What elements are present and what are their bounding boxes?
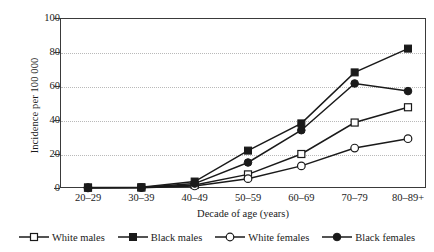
- data-point-4: [298, 120, 305, 127]
- legend-label: White females: [247, 232, 309, 243]
- data-point-0: [84, 184, 92, 192]
- chart-legend: White malesBlack malesWhite femalesBlack…: [0, 231, 434, 243]
- legend-item-black-females[interactable]: Black females: [322, 231, 415, 243]
- x-tick-label-6: 80–89+: [378, 192, 434, 203]
- y-axis-title: Incidence per 100 000: [29, 21, 40, 191]
- data-point-6: [404, 135, 412, 143]
- data-point-5: [351, 144, 359, 152]
- x-tick-label-2: 40–49: [165, 192, 225, 203]
- legend-marker-open-circle-icon: [215, 231, 245, 243]
- data-series-layer: [60, 18, 426, 188]
- data-point-2: [191, 180, 199, 188]
- legend-marker-filled-circle-icon: [322, 231, 352, 243]
- legend-marker-open-square-icon: [19, 231, 49, 243]
- data-point-5: [351, 69, 358, 76]
- chart-figure: Incidence per 100 000 020406080100 20–29…: [0, 0, 434, 252]
- x-tick-label-5: 70–79: [325, 192, 385, 203]
- data-point-4: [298, 151, 305, 158]
- legend-label: Black males: [150, 232, 203, 243]
- data-point-6: [404, 87, 412, 95]
- x-tick-label-4: 60–69: [271, 192, 331, 203]
- data-point-5: [351, 119, 358, 126]
- series-black-males: [85, 45, 412, 191]
- x-axis-title: Decade of age (years): [60, 208, 426, 219]
- legend-item-black-males[interactable]: Black males: [118, 231, 203, 243]
- data-point-6: [405, 104, 412, 111]
- x-tick-label-1: 30–39: [111, 192, 171, 203]
- legend-label: White males: [51, 232, 105, 243]
- data-point-3: [244, 159, 252, 167]
- legend-marker-filled-square-icon: [118, 231, 148, 243]
- data-point-3: [244, 175, 252, 183]
- y-tick-mark-0: [54, 188, 60, 189]
- data-point-6: [405, 45, 412, 52]
- data-point-4: [298, 126, 306, 134]
- data-point-5: [351, 80, 359, 88]
- legend-item-white-males[interactable]: White males: [19, 231, 105, 243]
- x-tick-label-0: 20–29: [58, 192, 118, 203]
- x-tick-label-3: 50–59: [218, 192, 278, 203]
- data-point-4: [298, 162, 306, 170]
- legend-label: Black females: [354, 232, 415, 243]
- data-point-1: [138, 184, 146, 192]
- legend-item-white-females[interactable]: White females: [215, 231, 309, 243]
- data-point-3: [245, 147, 252, 154]
